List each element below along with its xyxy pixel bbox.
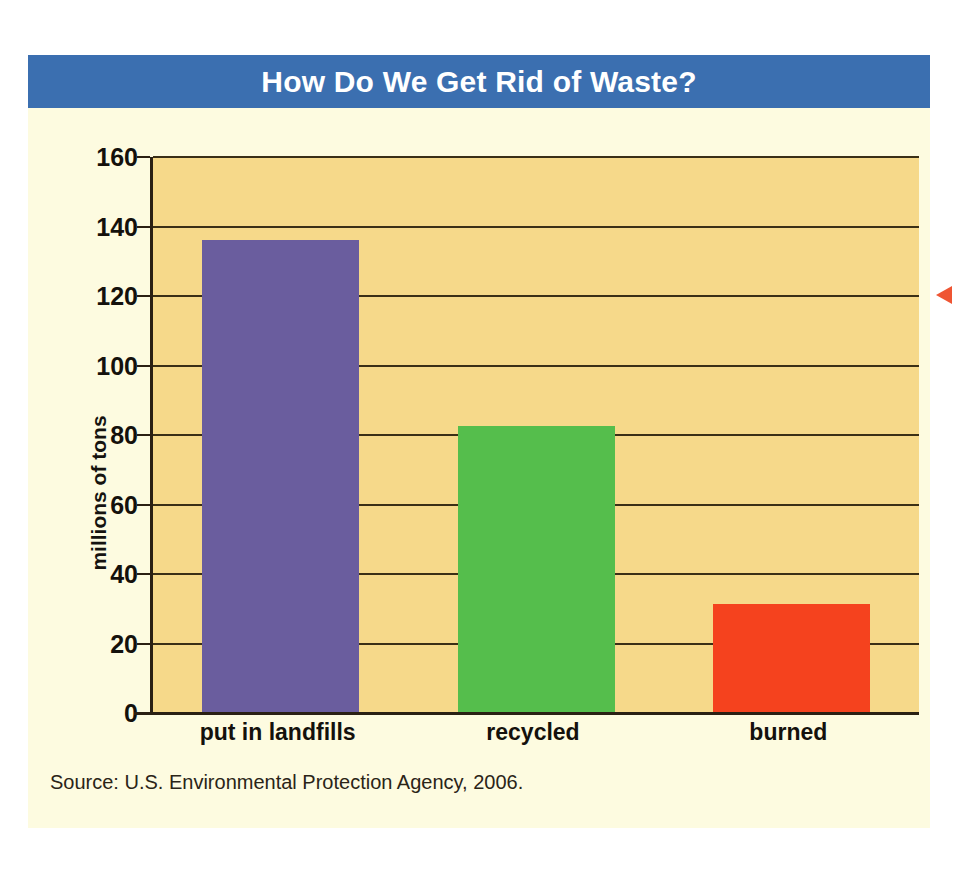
gridline xyxy=(153,156,919,158)
y-axis-tick xyxy=(137,643,150,645)
chart-title-banner: How Do We Get Rid of Waste? xyxy=(28,55,930,108)
callout-arrow-icon xyxy=(936,286,952,304)
page-title: How Do We Get Rid of Waste? xyxy=(261,65,696,99)
y-axis-tick-label: 20 xyxy=(68,629,138,658)
y-axis-tick-label: 80 xyxy=(68,421,138,450)
chart-card: How Do We Get Rid of Waste? millions of … xyxy=(28,55,930,828)
x-axis-tick-labels: put in landfillsrecycledburned xyxy=(150,719,916,759)
x-axis-tick-label: burned xyxy=(749,719,827,746)
source-note: Source: U.S. Environmental Protection Ag… xyxy=(50,771,523,794)
y-axis-tick-label: 160 xyxy=(68,143,138,172)
y-axis-tick-label: 60 xyxy=(68,490,138,519)
y-axis-tick xyxy=(137,226,150,228)
x-axis-line xyxy=(150,712,919,715)
y-axis-tick-label: 100 xyxy=(68,351,138,380)
bar xyxy=(713,604,870,713)
y-axis-tick-label: 0 xyxy=(68,699,138,728)
y-axis-tick xyxy=(137,573,150,575)
y-axis-tick-labels: 020406080100120140160 xyxy=(66,157,138,713)
axis-origin-tick xyxy=(134,712,150,715)
y-axis-tick xyxy=(137,156,150,158)
y-axis-tick xyxy=(137,504,150,506)
y-axis-tick xyxy=(137,434,150,436)
gridline xyxy=(153,226,919,228)
plot-area xyxy=(150,157,919,713)
y-axis-tick-label: 120 xyxy=(68,282,138,311)
y-axis-tick xyxy=(137,295,150,297)
bar xyxy=(458,426,615,713)
bar xyxy=(202,240,359,713)
y-axis-tick-label: 40 xyxy=(68,560,138,589)
y-axis-tick xyxy=(137,365,150,367)
y-axis-tick-label: 140 xyxy=(68,212,138,241)
x-axis-tick-label: put in landfills xyxy=(200,719,356,746)
x-axis-tick-label: recycled xyxy=(486,719,579,746)
